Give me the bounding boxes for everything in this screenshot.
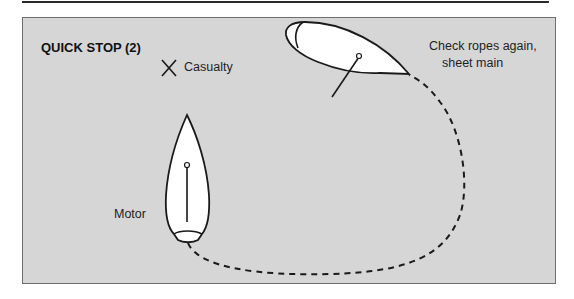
- bottom-boat-mast: [185, 163, 190, 168]
- check-ropes-label-line1: Check ropes again,: [429, 40, 537, 53]
- motor-label: Motor: [114, 208, 146, 221]
- top-boat: [286, 22, 409, 97]
- casualty-label: Casualty: [184, 61, 233, 74]
- diagram-title: QUICK STOP (2): [41, 40, 141, 55]
- top-boat-hull: [286, 22, 409, 74]
- top-boat-mast: [357, 54, 362, 59]
- check-ropes-label-line2: sheet main: [442, 57, 503, 70]
- x-mark-icon: [162, 60, 176, 76]
- dashed-course-path: [188, 75, 464, 274]
- bottom-boat: [166, 115, 209, 242]
